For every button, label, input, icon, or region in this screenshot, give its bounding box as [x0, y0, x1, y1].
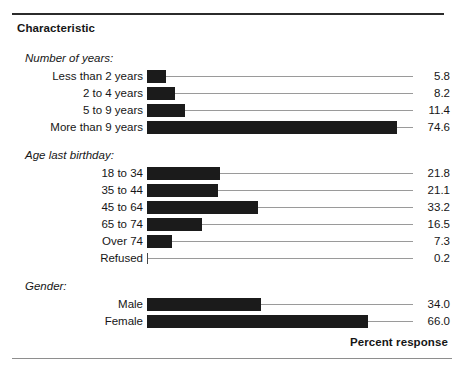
- bar-45-to-64: [147, 201, 258, 214]
- bar-row: 18 to 3421.8: [0, 165, 456, 182]
- bar-label-5-to-9-years: 5 to 9 years: [0, 102, 143, 119]
- bar-track: [147, 68, 413, 85]
- bar-65-to-74: [147, 218, 202, 231]
- bar-label-refused: Refused: [0, 250, 143, 267]
- bar-row: Over 747.3: [0, 233, 456, 250]
- page-title: Characteristic: [17, 22, 95, 34]
- group-title-number-of-years: Number of years:: [25, 52, 113, 64]
- bar-label-male: Male: [0, 296, 143, 313]
- bar-row: Female66.0: [0, 313, 456, 330]
- bar-value-male: 34.0: [413, 296, 450, 313]
- bar-track: [147, 233, 413, 250]
- bar-label-18-to-34: 18 to 34: [0, 165, 143, 182]
- bar-male: [147, 298, 261, 311]
- axis-label-percent-response: Percent response: [350, 336, 448, 348]
- bar-value-35-to-44: 21.1: [413, 182, 450, 199]
- bar-value-less-than-2-years: 5.8: [413, 68, 450, 85]
- bar-row: More than 9 years74.6: [0, 119, 456, 136]
- bar-tick-refused: [147, 253, 148, 264]
- bar-track: [147, 102, 413, 119]
- bar-value-more-than-9-years: 74.6: [413, 119, 450, 136]
- bar-label-35-to-44: 35 to 44: [0, 182, 143, 199]
- bar-track: [147, 313, 413, 330]
- group-title-gender: Gender:: [25, 280, 67, 292]
- bar-value-female: 66.0: [413, 313, 450, 330]
- bar-female: [147, 315, 368, 328]
- bar-row: 45 to 6433.2: [0, 199, 456, 216]
- top-divider-rule: [12, 13, 444, 15]
- leader-line: [147, 110, 413, 111]
- bar-over-74: [147, 235, 172, 248]
- group-title-age-last-birthday: Age last birthday:: [25, 149, 114, 161]
- bar-less-than-2-years: [147, 70, 166, 83]
- leader-line: [147, 241, 413, 242]
- leader-line: [147, 258, 413, 259]
- bar-track: [147, 85, 413, 102]
- bar-value-2-to-4-years: 8.2: [413, 85, 450, 102]
- bar-track: [147, 182, 413, 199]
- bottom-divider-rule: [12, 358, 452, 359]
- bar-2-to-4-years: [147, 87, 175, 100]
- bar-row: 5 to 9 years11.4: [0, 102, 456, 119]
- bar-track: [147, 199, 413, 216]
- bar-label-female: Female: [0, 313, 143, 330]
- bar-value-refused: 0.2: [413, 250, 450, 267]
- bar-18-to-34: [147, 167, 220, 180]
- bar-5-to-9-years: [147, 104, 185, 117]
- bar-label-65-to-74: 65 to 74: [0, 216, 143, 233]
- bar-row: 35 to 4421.1: [0, 182, 456, 199]
- bar-row: Less than 2 years5.8: [0, 68, 456, 85]
- bar-more-than-9-years: [147, 121, 397, 134]
- leader-line: [147, 76, 413, 77]
- bar-track: [147, 119, 413, 136]
- bar-label-more-than-9-years: More than 9 years: [0, 119, 143, 136]
- bar-track: [147, 216, 413, 233]
- bar-track: [147, 165, 413, 182]
- bar-label-less-than-2-years: Less than 2 years: [0, 68, 143, 85]
- bar-row: Male34.0: [0, 296, 456, 313]
- bar-label-2-to-4-years: 2 to 4 years: [0, 85, 143, 102]
- bar-value-45-to-64: 33.2: [413, 199, 450, 216]
- bar-label-over-74: Over 74: [0, 233, 143, 250]
- bar-row: 65 to 7416.5: [0, 216, 456, 233]
- bar-value-18-to-34: 21.8: [413, 165, 450, 182]
- bar-35-to-44: [147, 184, 218, 197]
- bar-track: [147, 250, 413, 267]
- bar-track: [147, 296, 413, 313]
- chart-canvas: Characteristic Number of years:Less than…: [0, 0, 456, 371]
- bar-value-over-74: 7.3: [413, 233, 450, 250]
- bar-value-5-to-9-years: 11.4: [413, 102, 450, 119]
- leader-line: [147, 93, 413, 94]
- bar-row: Refused0.2: [0, 250, 456, 267]
- bar-value-65-to-74: 16.5: [413, 216, 450, 233]
- bar-label-45-to-64: 45 to 64: [0, 199, 143, 216]
- bar-row: 2 to 4 years8.2: [0, 85, 456, 102]
